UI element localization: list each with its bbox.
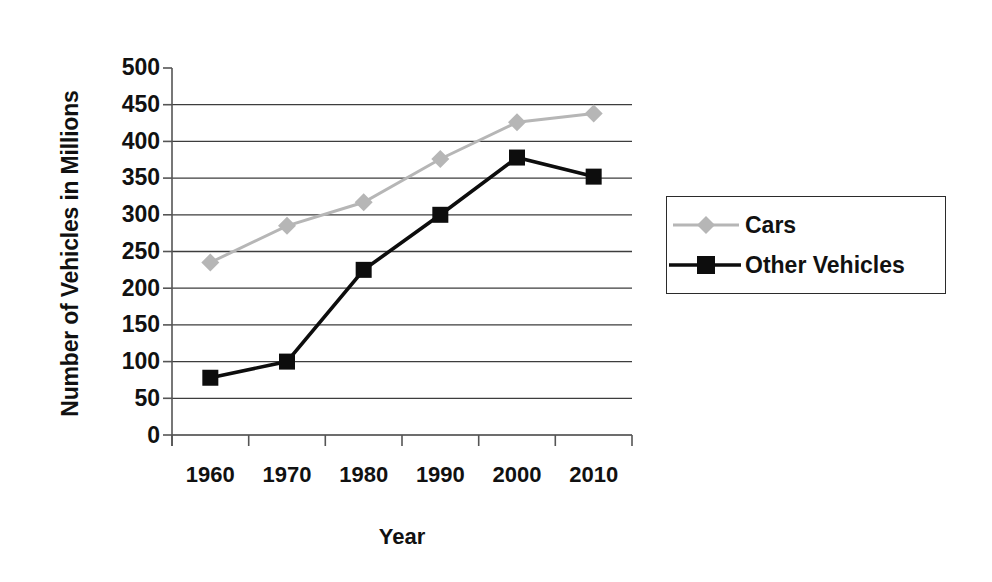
other-point-1970	[279, 354, 295, 370]
legend-key-cars-icon	[667, 210, 745, 240]
other-point-1960	[202, 370, 218, 386]
gridlines	[172, 105, 632, 435]
y-axis-spine	[163, 68, 172, 446]
x-tick-label: 1970	[249, 462, 326, 494]
cars-point-1970	[278, 217, 296, 235]
legend-item-cars: Cars	[667, 207, 947, 243]
x-tick-label: 2010	[555, 462, 632, 494]
plot-area	[172, 68, 632, 435]
plot-canvas	[172, 68, 642, 448]
legend-label-other-vehicles: Other Vehicles	[745, 252, 905, 279]
y-tick-label: 200	[82, 277, 160, 300]
y-axis-title: Number of Vehicles in Millions	[57, 44, 84, 464]
y-tick-label: 500	[82, 56, 160, 79]
other-point-2000	[509, 150, 525, 166]
cars-point-1990	[431, 150, 449, 168]
y-tick-label: 50	[82, 387, 160, 410]
x-tick-label: 1980	[325, 462, 402, 494]
y-tick-label: 450	[82, 93, 160, 116]
x-axis-tick-labels: 1960 1970 1980 1990 2000 2010	[172, 462, 632, 494]
y-tick-label: 100	[82, 350, 160, 373]
cars-point-1960	[201, 254, 219, 272]
other-point-1980	[356, 262, 372, 278]
chart-legend: Cars Other Vehicles	[666, 196, 946, 294]
series-other-vehicles	[202, 150, 601, 386]
y-tick-label: 250	[82, 240, 160, 263]
legend-label-cars: Cars	[745, 212, 796, 239]
legend-item-other-vehicles: Other Vehicles	[667, 247, 947, 283]
other-vehicles-markers	[202, 150, 601, 386]
cars-markers	[201, 105, 602, 272]
cars-point-1980	[355, 193, 373, 211]
x-tick-label: 1960	[172, 462, 249, 494]
series-cars	[201, 105, 602, 272]
chart-figure: Number of Vehicles in Millions 500 450 4…	[0, 0, 992, 582]
y-tick-label: 350	[82, 166, 160, 189]
other-point-2010	[586, 169, 602, 185]
cars-point-2000	[508, 113, 526, 131]
other-vehicles-line	[210, 158, 593, 378]
y-tick-label: 400	[82, 130, 160, 153]
x-axis-title: Year	[172, 524, 632, 550]
x-tick-label: 2000	[479, 462, 556, 494]
legend-key-other-vehicles-icon	[667, 250, 745, 280]
y-tick-label: 300	[82, 203, 160, 226]
cars-point-2010	[585, 105, 603, 123]
x-tick-label: 1990	[402, 462, 479, 494]
y-tick-label: 150	[82, 313, 160, 336]
y-tick-label: 0	[82, 424, 160, 447]
y-axis-tick-labels: 500 450 400 350 300 250 200 150 100 50 0	[82, 0, 160, 582]
other-point-1990	[432, 207, 448, 223]
x-axis-ticks	[172, 435, 632, 446]
